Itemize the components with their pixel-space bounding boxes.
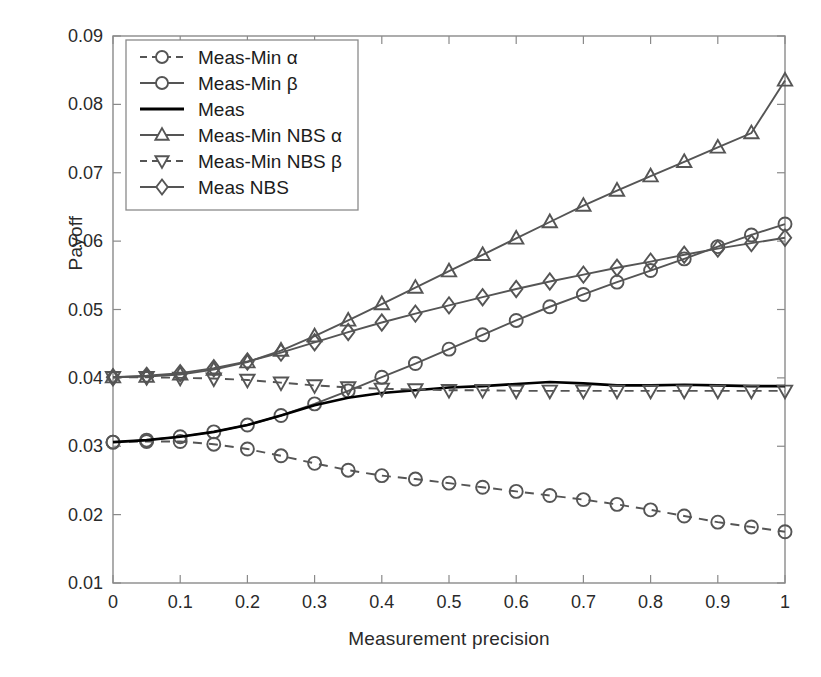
- marker-triangle-up: [442, 264, 456, 277]
- chart-canvas: 00.10.20.30.40.50.60.70.80.910.010.020.0…: [0, 0, 821, 677]
- figure-container: 00.10.20.30.40.50.60.70.80.910.010.020.0…: [0, 0, 821, 677]
- y-tick-label: 0.08: [68, 94, 103, 114]
- series-4: [106, 372, 792, 398]
- legend-label: Meas-Min α: [198, 47, 298, 68]
- marker-circle: [156, 77, 168, 89]
- y-tick-label: 0.09: [68, 26, 103, 46]
- legend-label: Meas: [198, 99, 244, 120]
- marker-triangle-up: [509, 231, 523, 244]
- marker-triangle-up: [543, 215, 557, 228]
- x-tick-label: 0: [108, 592, 118, 612]
- x-tick-label: 0.9: [705, 592, 730, 612]
- marker-triangle-down: [610, 386, 624, 399]
- marker-triangle-up: [375, 297, 389, 310]
- y-tick-label: 0.03: [68, 436, 103, 456]
- marker-triangle-up: [408, 280, 422, 293]
- x-tick-label: 0.1: [168, 592, 193, 612]
- legend-label: Meas-Min NBS β: [198, 151, 342, 172]
- legend-item-5[interactable]: Meas NBS: [140, 177, 289, 198]
- x-tick-label: 0.5: [436, 592, 461, 612]
- marker-triangle-down: [307, 380, 321, 393]
- legend-label: Meas-Min β: [198, 73, 298, 94]
- legend-label: Meas-Min NBS α: [198, 125, 342, 146]
- marker-triangle-down: [274, 377, 288, 390]
- series-line: [113, 224, 785, 442]
- x-tick-label: 0.8: [638, 592, 663, 612]
- x-axis-label: Measurement precision: [113, 628, 785, 650]
- x-tick-label: 0.6: [504, 592, 529, 612]
- legend-label: Meas NBS: [198, 177, 289, 198]
- series-5: [107, 230, 791, 386]
- x-tick-label: 0.3: [302, 592, 327, 612]
- x-tick-label: 1: [780, 592, 790, 612]
- x-tick-label: 0.2: [235, 592, 260, 612]
- marker-triangle-down: [643, 386, 657, 399]
- marker-triangle-down: [677, 386, 691, 399]
- marker-triangle-down: [711, 386, 725, 399]
- marker-triangle-up: [475, 247, 489, 260]
- marker-triangle-down: [744, 386, 758, 399]
- marker-triangle-down: [509, 386, 523, 399]
- y-axis-label: Payoff: [65, 163, 87, 323]
- y-tick-label: 0.02: [68, 505, 103, 525]
- marker-triangle-down: [576, 386, 590, 399]
- y-tick-label: 0.04: [68, 368, 103, 388]
- legend: Meas-Min αMeas-Min βMeasMeas-Min NBS αMe…: [126, 40, 358, 210]
- marker-triangle-down: [543, 386, 557, 399]
- marker-triangle-down: [240, 375, 254, 388]
- marker-circle: [156, 51, 168, 63]
- x-tick-label: 0.7: [571, 592, 596, 612]
- marker-triangle-up: [576, 198, 590, 211]
- series-0: [107, 435, 792, 538]
- x-tick-label: 0.4: [369, 592, 394, 612]
- y-tick-label: 0.01: [68, 573, 103, 593]
- series-line: [113, 441, 785, 531]
